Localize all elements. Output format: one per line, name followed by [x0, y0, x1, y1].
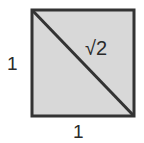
left-side-label: 1 — [7, 54, 18, 73]
diagonal-label: √2 — [85, 38, 107, 58]
bottom-side-label: 1 — [73, 122, 84, 141]
square-diagram — [0, 0, 144, 143]
